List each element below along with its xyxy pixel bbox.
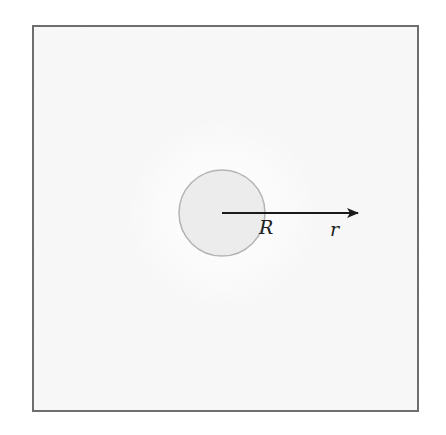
diagram-canvas: R r	[0, 0, 446, 435]
inner-radius-label: R	[258, 216, 273, 238]
